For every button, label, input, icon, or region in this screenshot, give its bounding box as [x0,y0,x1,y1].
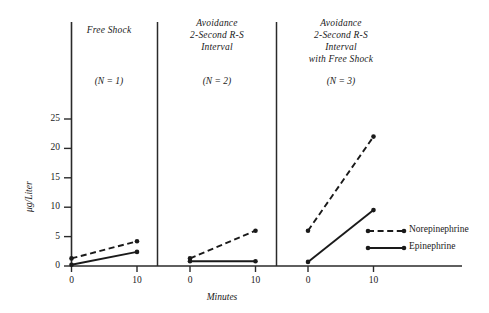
x-tick-label-p1-10: 10 [127,275,147,287]
panel-1-series [69,239,139,267]
x-tick-label-p2-10: 10 [246,275,266,287]
panel-3-series [306,134,376,264]
panel-2-series [188,228,258,263]
p1-norepinephrine-point-10 [135,239,140,244]
p3-epinephrine-point-0 [306,260,311,265]
x-axis-title: Minutes [177,292,267,304]
panel-2-title-line-3: Interval [167,42,267,54]
y-tick-label-5: 5 [38,231,60,243]
p1-norepinephrine-point-0 [69,256,74,261]
p3-epinephrine-point-10 [371,208,376,213]
chart-figure: Free Shock (N = 1) Avoidance 2-Second R-… [0,0,489,313]
panel-3-n-label: (N = 3) [286,76,396,88]
panel-3-title-line-1: Avoidance [286,18,396,30]
legend-swatches [366,229,407,251]
panel-3-title-line-3: Interval [286,42,396,54]
p3-norepinephrine-point-0 [306,228,311,233]
panel-1-n-label: (N = 1) [64,76,154,88]
panel-3-title-line-2: 2-Second R-S [286,30,396,42]
p3-epinephrine-line [308,210,374,262]
y-tick-label-0: 0 [38,260,60,272]
y-tick-label-15: 15 [38,172,60,184]
p2-epinephrine-point-0 [188,259,193,264]
p1-epinephrine-point-0 [69,263,74,268]
p3-norepinephrine-line [308,137,374,231]
legend-label-epinephrine: Epinephrine [409,241,455,253]
p2-norepinephrine-point-10 [253,228,258,233]
panel-2-title-line-2: 2-Second R-S [167,30,267,42]
p3-norepinephrine-point-10 [371,134,376,139]
legend-norepinephrine-swatch-dot-end [402,229,407,234]
legend-epinephrine-swatch-dot-start [366,246,371,251]
panel-2-title-line-1: Avoidance [167,18,267,30]
panel-1-title: Free Shock [64,25,154,37]
y-axis-title: μg/Liter [24,181,36,212]
x-tick-label-p3-10: 10 [364,275,384,287]
p2-norepinephrine-line [190,231,256,259]
axes-group [64,22,462,272]
p2-epinephrine-point-10 [253,259,258,264]
x-tick-label-p2-0: 0 [180,275,200,287]
legend-norepinephrine-swatch-dot-start [366,229,371,234]
panel-2-n-label: (N = 2) [167,76,267,88]
legend-epinephrine-swatch-dot-end [402,246,407,251]
panel-3-title-line-4: with Free Shock [286,54,396,66]
y-tick-label-25: 25 [38,113,60,125]
y-tick-label-10: 10 [38,201,60,213]
p1-epinephrine-point-10 [135,250,140,255]
p1-epinephrine-line [72,252,138,265]
x-tick-label-p1-0: 0 [62,275,82,287]
x-tick-label-p3-0: 0 [298,275,318,287]
legend-label-norepinephrine: Norepinephrine [409,224,469,236]
p1-norepinephrine-line [72,241,138,258]
y-tick-label-20: 20 [38,142,60,154]
